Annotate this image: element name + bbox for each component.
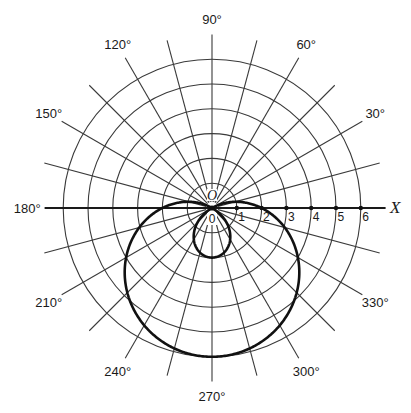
gridline-300deg (215, 213, 299, 358)
angle-label-150: 150° (35, 106, 62, 121)
angle-label-90: 90° (202, 12, 222, 27)
gridline-60deg (215, 58, 299, 203)
gridline-225deg (89, 212, 207, 330)
angle-label-270: 270° (199, 389, 226, 404)
origin-tick-label: 0 (209, 212, 216, 226)
tick-label-1: 1 (238, 210, 245, 224)
pole-label: O (207, 188, 217, 203)
angle-label-120: 120° (104, 37, 131, 52)
gridline-315deg (216, 212, 334, 330)
gridline-105deg (167, 40, 210, 202)
gridline-165deg (44, 163, 206, 206)
angle-label-210: 210° (35, 295, 62, 310)
polar-chart: 123456 X30°60°90°120°150°180°210°240°270… (0, 0, 411, 413)
tick-label-4: 4 (313, 210, 320, 224)
gridline-195deg (44, 210, 206, 253)
tick-label-6: 6 (362, 210, 369, 224)
gridline-15deg (218, 163, 380, 206)
angle-label-60: 60° (296, 37, 316, 52)
gridline-285deg (214, 214, 257, 376)
angle-label-180: 180° (14, 201, 41, 216)
gridline-75deg (214, 40, 257, 202)
gridline-210deg (62, 211, 207, 295)
gridline-255deg (167, 214, 210, 376)
gridline-120deg (125, 58, 209, 203)
angle-label-240: 240° (104, 364, 131, 379)
gridline-45deg (216, 85, 334, 203)
angle-label-30: 30° (365, 106, 385, 121)
pole-dot (209, 205, 214, 210)
angle-label-330: 330° (362, 295, 389, 310)
tick-label-5: 5 (338, 210, 345, 224)
x-axis-label: X (389, 198, 401, 217)
tick-label-3: 3 (288, 210, 295, 224)
angle-label-300: 300° (293, 364, 320, 379)
gridline-150deg (62, 121, 207, 205)
gridline-240deg (125, 213, 209, 358)
gridline-135deg (89, 85, 207, 203)
tick-label-2: 2 (263, 210, 270, 224)
gridline-30deg (217, 121, 362, 205)
